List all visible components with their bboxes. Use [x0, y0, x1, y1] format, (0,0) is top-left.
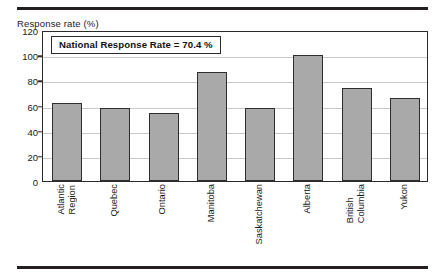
x-axis-tick-label: Saskatchewan	[254, 184, 265, 244]
bar	[52, 103, 82, 181]
y-axis-tick-label: 40	[27, 126, 38, 137]
bottom-rule	[17, 266, 428, 269]
y-axis-tick-mark	[38, 106, 42, 107]
bar	[100, 108, 130, 181]
bar-series	[43, 32, 427, 181]
y-axis-tick-label: 20	[27, 151, 38, 162]
y-axis-tick-label: 80	[27, 76, 38, 87]
x-axis-tick-labels: AtlanticRegionQuebecOntarioManitobaSaska…	[42, 184, 428, 264]
y-axis-tick-mark	[38, 156, 42, 157]
bar	[245, 108, 275, 181]
top-rule	[17, 7, 428, 10]
bar	[342, 88, 372, 181]
x-axis-tick-label: BritishColumbia	[345, 184, 366, 223]
y-axis-tick-label: 60	[27, 101, 38, 112]
figure-bar-chart: Response rate (%) 020406080100120 Nation…	[0, 0, 445, 277]
x-axis-tick-label: Manitoba	[206, 184, 217, 222]
x-axis-tick-label: AtlanticRegion	[56, 184, 77, 215]
y-axis-tick-labels: 020406080100120	[0, 31, 38, 182]
y-axis-tick-mark	[38, 81, 42, 82]
y-axis-tick-mark	[38, 55, 42, 56]
x-axis-tick-label: Ontario	[157, 184, 168, 215]
y-axis-tick-label: 100	[22, 51, 38, 62]
y-axis-tick-mark	[38, 131, 42, 132]
bar	[197, 72, 227, 181]
x-axis-tick-label: Alberta	[302, 184, 313, 213]
bar	[149, 113, 179, 181]
bar	[293, 55, 323, 181]
y-axis-tick-label: 0	[33, 177, 38, 188]
x-axis-tick-label: Yukon	[399, 184, 410, 210]
y-axis-tick-label: 120	[22, 26, 38, 37]
x-axis-tick-label: Quebec	[109, 184, 120, 217]
national-response-rate-annotation: National Response Rate = 70.4 %	[51, 36, 221, 54]
bar	[390, 98, 420, 181]
